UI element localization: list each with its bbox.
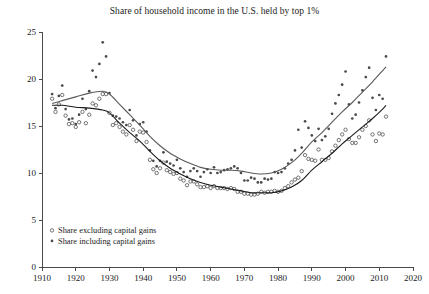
data-point [88, 90, 91, 93]
data-point [68, 118, 71, 121]
x-axis-tick-label: 2020 [404, 273, 423, 283]
data-point [118, 117, 121, 120]
data-point [158, 167, 161, 170]
data-point [145, 140, 148, 143]
data-point [111, 123, 114, 126]
data-point [95, 76, 98, 79]
data-point [290, 181, 293, 184]
data-point [64, 114, 67, 117]
data-point [165, 160, 168, 163]
data-point [51, 93, 54, 96]
data-point [381, 97, 384, 100]
data-point [101, 92, 104, 95]
data-point [243, 179, 246, 182]
data-point [236, 167, 239, 170]
data-point [216, 172, 219, 175]
data-point [354, 141, 357, 144]
y-axis-tick-label: 0 [32, 262, 37, 272]
data-point [50, 97, 53, 100]
data-point [58, 95, 61, 98]
data-point [303, 153, 306, 156]
x-axis-tick-label: 2010 [370, 273, 389, 283]
data-point [128, 109, 131, 112]
data-point [101, 41, 104, 44]
y-axis-tick-label: 15 [27, 121, 37, 131]
data-point [219, 171, 222, 174]
data-point [327, 127, 330, 130]
data-point [64, 108, 67, 111]
data-point [341, 83, 344, 86]
data-point [230, 167, 233, 170]
data-point [304, 120, 307, 123]
data-point [331, 112, 334, 115]
scatter-plot: 0510152025191019201930194019501960197019… [0, 0, 429, 294]
data-point [71, 117, 74, 120]
data-point [91, 102, 94, 105]
x-axis-tick-label: 1990 [303, 273, 322, 283]
data-point [317, 148, 320, 151]
data-point [118, 125, 121, 128]
data-point [334, 102, 337, 105]
data-point [169, 162, 172, 165]
data-point [337, 94, 340, 97]
data-point [78, 113, 81, 116]
x-axis-tick-label: 1980 [269, 273, 288, 283]
including-trend [52, 67, 386, 174]
x-axis-tick-label: 1960 [202, 273, 221, 283]
data-point [374, 139, 377, 142]
data-point [297, 176, 300, 179]
data-point [115, 115, 118, 118]
data-point [135, 134, 138, 137]
x-axis-tick-label: 1940 [134, 273, 153, 283]
data-point [98, 63, 101, 66]
data-point [162, 151, 165, 154]
data-point [189, 180, 192, 183]
data-point [71, 121, 74, 124]
data-point [122, 121, 125, 124]
data-series [50, 41, 387, 196]
data-point [125, 133, 128, 136]
x-axis-tick-label: 1910 [33, 273, 52, 283]
data-point [358, 101, 361, 104]
data-point [243, 192, 246, 195]
data-point [84, 121, 87, 124]
x-axis-tick-label: 2000 [337, 273, 356, 283]
data-point [321, 139, 324, 142]
data-point [138, 130, 141, 133]
data-point [185, 184, 188, 187]
data-point [81, 97, 84, 100]
data-point [91, 69, 94, 72]
data-point [168, 170, 171, 173]
data-point [351, 141, 354, 144]
data-point [209, 186, 212, 189]
legend-marker-open-circle-icon [50, 229, 53, 232]
data-point [340, 133, 343, 136]
data-point [371, 96, 374, 99]
data-point [148, 158, 151, 161]
data-point [94, 104, 97, 107]
x-axis-tick-label: 1950 [168, 273, 187, 283]
legend-marker-filled-circle-icon [51, 240, 54, 243]
data-point [74, 123, 77, 126]
data-point [246, 179, 249, 182]
data-point [334, 144, 337, 147]
data-point [344, 128, 347, 131]
data-point [364, 76, 367, 79]
data-point [182, 171, 185, 174]
data-point [61, 84, 64, 87]
data-point [385, 55, 388, 58]
data-point [253, 193, 256, 196]
y-axis-tick-label: 5 [32, 215, 37, 225]
data-point [307, 127, 310, 130]
data-point [142, 121, 145, 124]
data-point [290, 158, 293, 161]
data-point [344, 70, 347, 73]
data-point [98, 97, 101, 100]
data-point [131, 128, 134, 131]
data-point [155, 165, 158, 168]
data-point [293, 178, 296, 181]
data-point [371, 133, 374, 136]
data-point [257, 181, 260, 184]
data-point [260, 181, 263, 184]
data-point [189, 170, 192, 173]
